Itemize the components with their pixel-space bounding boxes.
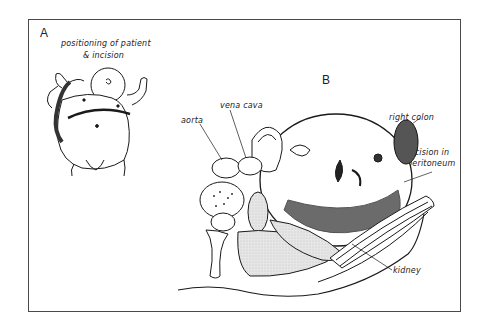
illustration-art bbox=[0, 0, 484, 327]
patient-figure-icon bbox=[47, 68, 147, 176]
cross-section-icon bbox=[178, 110, 434, 296]
